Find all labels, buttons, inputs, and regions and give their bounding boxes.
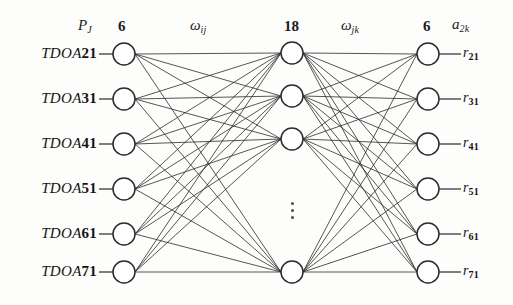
input-label-number: 31 [82, 90, 97, 106]
output-label-subscript: 31 [468, 96, 478, 107]
header-input-symbol: PJ [78, 18, 92, 35]
edge-hidden-output [303, 139, 417, 272]
edge-input-hidden [135, 96, 281, 144]
edge-input-hidden [135, 139, 281, 234]
input-node [113, 178, 135, 200]
output-label-subscript: 21 [468, 51, 478, 62]
input-node-label: TDOA71 [14, 264, 97, 279]
input-node [113, 223, 135, 245]
edge-hidden-output [303, 96, 417, 189]
hidden-node [281, 128, 303, 150]
output-node-label: r21 [463, 46, 479, 62]
output-label-subscript: 71 [468, 269, 478, 280]
input-node-label: TDOA51 [14, 181, 97, 196]
edge-hidden-output [303, 96, 417, 234]
edge-input-hidden [135, 139, 281, 189]
input-label-prefix: TDOA [41, 180, 81, 196]
figure-canvas: PJ 6 ωij 18 ωjk 6 a2k TDOA21TDOA31TDOA41… [0, 0, 513, 305]
input-node-label: TDOA61 [14, 226, 97, 241]
edge-input-hidden [135, 99, 281, 139]
edge-hidden-output [303, 99, 417, 139]
header-input-count: 6 [118, 19, 126, 34]
output-node [417, 43, 439, 65]
header-hidden-count: 18 [284, 19, 299, 34]
edge-hidden-output [303, 189, 417, 272]
output-node [417, 88, 439, 110]
input-node-label: TDOA31 [14, 91, 97, 106]
input-node [113, 261, 135, 283]
header-output-count: 6 [423, 19, 431, 34]
edge-input-hidden [135, 139, 281, 272]
edge-hidden-output [303, 53, 417, 54]
output-node-label: r31 [463, 91, 479, 107]
edge-hidden-output [303, 53, 417, 189]
input-label-prefix: TDOA [41, 135, 81, 151]
hidden-node [281, 85, 303, 107]
header-weights-ij: ωij [190, 18, 207, 35]
output-node-label: r51 [463, 181, 479, 197]
input-label-number: 71 [82, 263, 97, 279]
output-node-label: r61 [463, 226, 479, 242]
output-node [417, 223, 439, 245]
input-node [113, 43, 135, 65]
output-node [417, 133, 439, 155]
ellipsis-dot [291, 209, 294, 212]
output-label-subscript: 41 [468, 141, 478, 152]
hidden-node [281, 42, 303, 64]
input-label-prefix: TDOA [41, 263, 81, 279]
edge-hidden-output [303, 139, 417, 234]
output-label-subscript: 61 [468, 231, 478, 242]
hidden-node [281, 261, 303, 283]
input-node [113, 133, 135, 155]
output-node [417, 178, 439, 200]
edge-hidden-output [303, 139, 417, 189]
input-node-label: TDOA21 [14, 46, 97, 61]
header-weights-jk: ωjk [341, 18, 359, 35]
edge-input-hidden [135, 189, 281, 272]
output-node-label: r41 [463, 136, 479, 152]
ellipsis-dot [291, 202, 294, 205]
output-node-label: r71 [463, 264, 479, 280]
output-node [417, 261, 439, 283]
edge-input-hidden [135, 53, 281, 189]
ellipsis-dot [291, 216, 294, 219]
input-label-number: 51 [82, 180, 97, 196]
edge-hidden-output [303, 96, 417, 144]
input-label-prefix: TDOA [41, 90, 81, 106]
input-node-label: TDOA41 [14, 136, 97, 151]
edge-input-hidden [135, 96, 281, 234]
input-node [113, 88, 135, 110]
input-label-number: 61 [82, 225, 97, 241]
input-label-prefix: TDOA [41, 45, 81, 61]
input-label-number: 41 [82, 135, 97, 151]
input-label-number: 21 [82, 45, 97, 61]
output-label-subscript: 51 [468, 186, 478, 197]
edge-input-hidden [135, 96, 281, 189]
input-label-prefix: TDOA [41, 225, 81, 241]
edge-input-hidden [135, 53, 281, 54]
header-output-symbol: a2k [452, 17, 469, 34]
